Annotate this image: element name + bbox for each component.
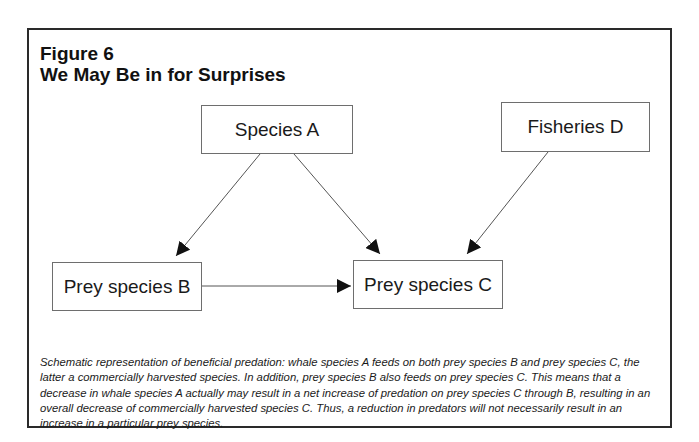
node-prey-species-c-label: Prey species C	[364, 274, 492, 296]
node-fisheries-d-label: Fisheries D	[527, 116, 623, 138]
edge-a-to-c	[294, 154, 380, 254]
edge-d-to-c	[467, 152, 548, 254]
node-prey-species-c: Prey species C	[353, 260, 503, 309]
node-prey-species-b: Prey species B	[52, 262, 202, 311]
node-species-a: Species A	[201, 105, 353, 154]
node-species-a-label: Species A	[235, 119, 320, 141]
node-prey-species-b-label: Prey species B	[64, 276, 191, 298]
edge-a-to-b	[176, 154, 260, 256]
node-fisheries-d: Fisheries D	[501, 102, 650, 152]
figure-caption: Schematic representation of beneficial p…	[40, 355, 665, 431]
